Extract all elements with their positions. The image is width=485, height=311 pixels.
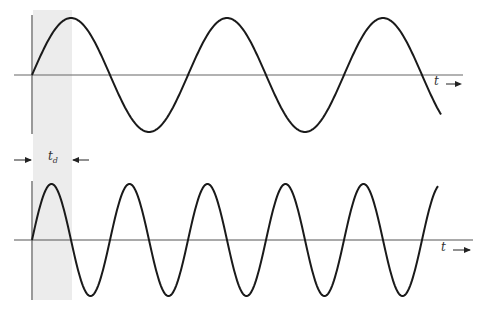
- top-axis-label: t: [434, 74, 439, 88]
- top-time-arrow-icon: [446, 81, 462, 87]
- delay-label: td: [48, 149, 58, 165]
- delay-right-arrow-icon: [72, 157, 89, 163]
- diagram-canvas: [0, 0, 485, 311]
- bottom-axis-label: t: [441, 240, 446, 254]
- delay-left-arrow-icon: [14, 157, 32, 163]
- delay-label-subscript: d: [53, 156, 58, 165]
- bottom-time-arrow-icon: [453, 247, 471, 253]
